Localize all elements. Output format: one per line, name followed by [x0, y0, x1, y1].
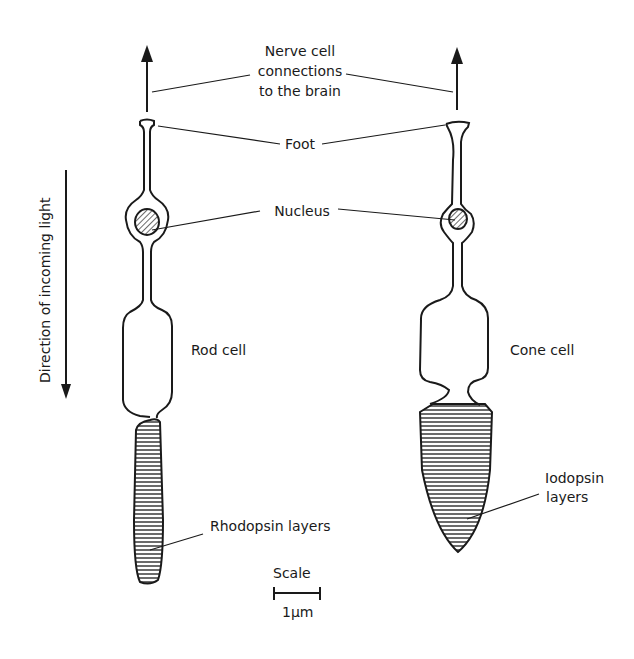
- nerve-leader-left: [152, 75, 250, 92]
- scale-unit-label: 1µm: [282, 604, 313, 620]
- foot-leader-left: [158, 126, 280, 144]
- left-nerve-arrow: [141, 45, 153, 112]
- cone-cell-label: Cone cell: [510, 342, 574, 358]
- title-line-3: to the brain: [259, 83, 341, 99]
- direction-label: Direction of incoming light: [37, 197, 53, 383]
- title-line-1: Nerve cell: [265, 43, 335, 59]
- right-nerve-arrow: [451, 47, 463, 110]
- nerve-leader-right: [346, 74, 453, 92]
- scale-label: Scale: [273, 565, 311, 581]
- scale-bar: Scale 1µm: [273, 565, 320, 620]
- title-line-2: connections: [258, 63, 342, 79]
- cone-cell: [420, 122, 492, 552]
- photoreceptor-diagram: Nerve cell connections to the brain Foot…: [0, 0, 634, 659]
- iodopsin-label-line-2: layers: [546, 489, 588, 505]
- foot-leader-right: [322, 125, 445, 144]
- nucleus-label: Nucleus: [274, 203, 330, 219]
- light-direction-arrow: [61, 170, 71, 399]
- nerve-connections-label: Nerve cell connections to the brain: [258, 43, 342, 99]
- rhodopsin-label: Rhodopsin layers: [210, 518, 330, 534]
- iodopsin-label-line-1: Iodopsin: [545, 470, 604, 486]
- rod-cell: [123, 120, 172, 584]
- foot-label: Foot: [285, 136, 316, 152]
- nucleus-leader-right: [338, 209, 455, 220]
- rod-cell-label: Rod cell: [191, 342, 246, 358]
